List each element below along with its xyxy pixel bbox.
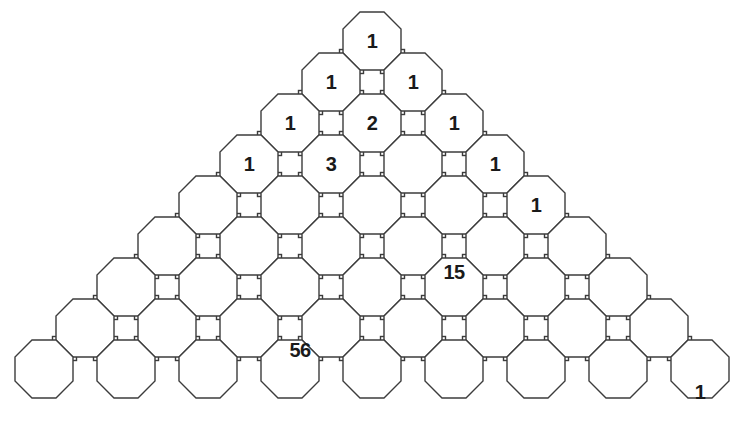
pascals-triangle-figure: 111121131115561: [0, 0, 738, 436]
octagon-cell: [589, 340, 647, 398]
tessellation-shapes: [15, 12, 729, 398]
cell-number: 1: [244, 154, 255, 174]
tessellation-svg: [0, 0, 738, 436]
octagon-cell: [425, 340, 483, 398]
octagon-cell: [179, 340, 237, 398]
cell-number: 1: [531, 195, 542, 215]
cell-number: 1: [695, 382, 706, 402]
cell-number: 56: [289, 340, 310, 360]
cell-number: 1: [367, 31, 378, 51]
octagon-cell: [15, 340, 73, 398]
cell-number: 1: [285, 113, 296, 133]
cell-number: 1: [408, 72, 419, 92]
cell-number: 1: [490, 154, 501, 174]
octagon-cell: [343, 340, 401, 398]
cell-number: 1: [449, 113, 460, 133]
cell-number: 3: [326, 154, 337, 174]
cell-number: 15: [443, 262, 464, 282]
octagon-cell: [97, 340, 155, 398]
cell-number: 2: [367, 113, 378, 133]
octagon-cell: [507, 340, 565, 398]
cell-number: 1: [326, 72, 337, 92]
